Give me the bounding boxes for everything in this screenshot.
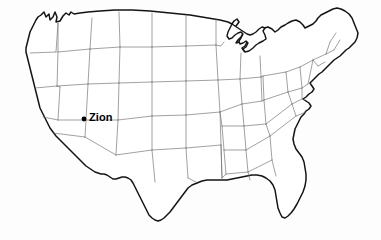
zion-marker-label: Zion	[89, 112, 113, 123]
us-map-figure: Zion	[0, 0, 381, 240]
zion-marker-dot[interactable]	[82, 117, 87, 122]
us-map-svg	[0, 0, 381, 240]
